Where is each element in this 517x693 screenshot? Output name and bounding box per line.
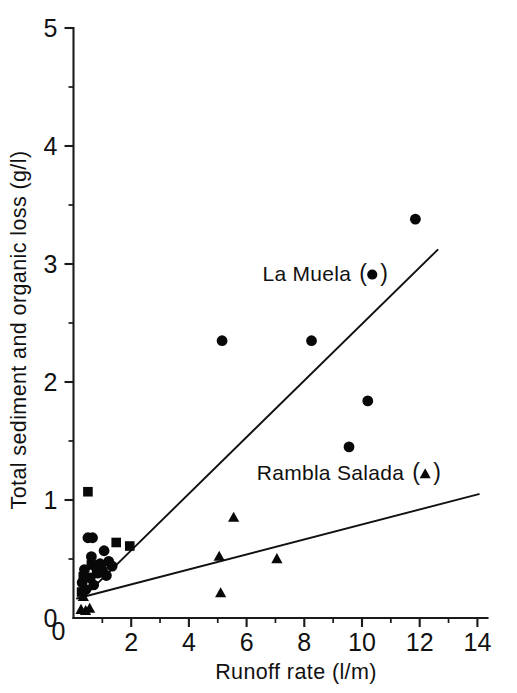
data-point-circle — [107, 561, 118, 572]
data-point-triangle — [228, 512, 239, 522]
x-tick-label: 10 — [348, 628, 376, 656]
data-point-circle — [362, 395, 373, 406]
legend-circle-icon — [367, 269, 377, 279]
data-point-square — [125, 541, 135, 551]
data-point-triangle — [271, 553, 282, 563]
data-point-square — [77, 587, 87, 597]
data-point-square — [79, 572, 89, 582]
x-tick-label: 0 — [52, 617, 66, 645]
data-point-square — [98, 567, 108, 577]
series-label-la-muela: La Muela — [262, 262, 351, 285]
data-point-circle — [217, 335, 228, 346]
data-point-circle — [88, 580, 99, 591]
data-point-circle — [87, 532, 98, 543]
data-point-circle — [344, 442, 355, 453]
y-tick-label: 3 — [44, 250, 58, 278]
x-tick-label: 8 — [297, 628, 311, 656]
scatter-plot: 01234502468101214 La Muela()Rambla Salad… — [0, 0, 517, 693]
data-point-circle — [410, 214, 421, 225]
data-point-circle — [306, 335, 317, 346]
y-tick-label: 1 — [44, 486, 58, 514]
axes-layer — [65, 28, 488, 627]
x-tick-label: 2 — [124, 628, 138, 656]
regression-lines-layer — [77, 250, 479, 599]
data-point-circle — [99, 545, 110, 556]
series-label-rambla-salada: Rambla Salada — [257, 461, 405, 484]
x-tick-label: 14 — [463, 628, 491, 656]
chart-figure: 01234502468101214 La Muela()Rambla Salad… — [0, 0, 517, 693]
y-axis-title: Total sediment and organic loss (g/l) — [7, 151, 31, 510]
y-tick-label: 5 — [44, 14, 58, 42]
legend-open-paren: ( — [359, 260, 367, 286]
legend-triangle-icon — [420, 468, 431, 478]
legend-close-paren: ) — [380, 260, 388, 286]
data-point-triangle — [215, 587, 226, 597]
y-tick-label: 2 — [44, 368, 58, 396]
regression-line — [77, 494, 479, 598]
y-tick-label: 4 — [44, 132, 58, 160]
data-point-square — [111, 538, 121, 548]
legend-close-paren: ) — [433, 459, 441, 485]
x-tick-label: 4 — [182, 628, 196, 656]
legend-open-paren: ( — [412, 459, 420, 485]
data-point-triangle — [214, 551, 225, 561]
data-point-square — [83, 487, 93, 497]
regression-line — [85, 250, 438, 596]
x-axis-title: Runoff rate (l/m) — [215, 660, 377, 684]
x-tick-label: 6 — [240, 628, 254, 656]
x-tick-label: 12 — [406, 628, 434, 656]
